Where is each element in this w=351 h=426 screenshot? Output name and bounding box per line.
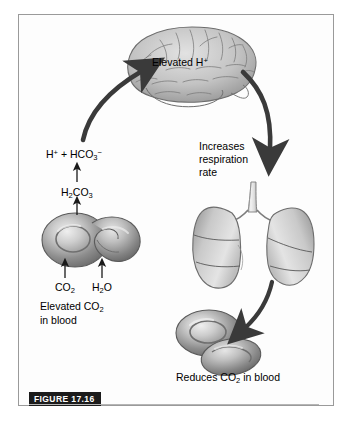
rbc-left-illustration xyxy=(42,213,140,267)
reduces-co2-caption: Reduces CO2 in blood xyxy=(176,371,280,385)
figure-tag-rule xyxy=(29,404,319,405)
respiration-rate-caption: Increasesrespirationrate xyxy=(199,140,248,178)
co2-reactant-label: CO2 xyxy=(55,281,75,295)
arrow-lungs-to-rbc xyxy=(245,282,272,328)
elevated-co2-caption: Elevated CO2in blood xyxy=(40,300,104,327)
brain-stimulus-label: Elevated H+ xyxy=(152,56,208,69)
figure-page: Elevated H+ H+ + HCO3− H2CO3 CO2 H2O Ele… xyxy=(0,0,351,426)
lungs-illustration xyxy=(193,182,314,288)
water-reactant-label: H2O xyxy=(92,281,112,295)
bicarbonate-formula-label: H+ + HCO3− xyxy=(46,148,102,162)
carbonic-acid-label: H2CO3 xyxy=(61,186,93,200)
